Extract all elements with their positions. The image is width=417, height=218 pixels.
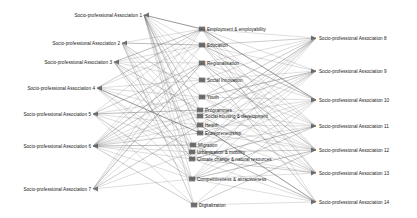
node-marker[interactable] <box>199 43 205 48</box>
node-label-m14: Digitalization <box>199 203 226 208</box>
edge <box>192 152 316 173</box>
node-marker[interactable] <box>190 143 196 148</box>
node-label-m13: Competitiveness & attractiveness <box>197 177 266 182</box>
node-label-m9: Entrepreneurship <box>205 131 241 136</box>
node-label-m10: Migration <box>198 143 217 148</box>
node-marker[interactable] <box>197 131 203 136</box>
edge <box>202 45 316 71</box>
node-marker[interactable] <box>199 61 205 66</box>
network-diagram-canvas: Socio-professional Association 1Socio-pr… <box>0 0 417 218</box>
node-label-l5: Socio-professional Association 5 <box>23 112 91 117</box>
edge <box>93 29 202 189</box>
node-label-l6: Socio-professional Association 6 <box>23 144 91 149</box>
node-marker[interactable] <box>199 27 205 32</box>
node-marker[interactable] <box>197 108 203 113</box>
node-label-l7: Socio-professional Association 7 <box>23 187 91 192</box>
node-label-m4: Social innovation <box>207 78 243 83</box>
node-marker[interactable] <box>191 203 197 208</box>
node-label-m1: Employment & employability <box>207 27 266 32</box>
node-label-l1: Socio-professional Association 1 <box>74 13 142 18</box>
node-label-l3: Socio-professional Association 3 <box>44 60 112 65</box>
node-label-m6: Programmes <box>205 108 232 113</box>
node-label-m11: Urbanisation & mobility <box>197 150 245 155</box>
edge <box>97 88 192 179</box>
edge <box>93 152 192 189</box>
node-marker[interactable] <box>189 157 195 162</box>
node-label-r6: Socio-professional Association 13 <box>319 171 389 176</box>
edge <box>97 29 202 88</box>
node-label-m3: Regionalisation <box>207 61 239 66</box>
node-label-m12: Climate change & natural resources <box>197 157 272 162</box>
node-label-r1: Socio-professional Association 8 <box>319 36 387 41</box>
node-label-m7: Social housing & development <box>205 114 268 119</box>
edge <box>114 62 200 110</box>
node-label-r2: Socio-professional Association 9 <box>319 69 387 74</box>
edge <box>93 29 202 146</box>
node-marker[interactable] <box>199 78 205 83</box>
node-marker[interactable] <box>189 177 195 182</box>
node-label-l2: Socio-professional Association 2 <box>52 41 120 46</box>
node-marker[interactable] <box>197 123 203 128</box>
node-label-m8: Health <box>205 123 219 128</box>
edge <box>93 125 200 189</box>
edge <box>93 146 194 205</box>
node-marker[interactable] <box>197 114 203 119</box>
edge <box>93 63 202 114</box>
node-marker[interactable] <box>199 95 205 100</box>
edge <box>93 179 192 189</box>
node-label-r7: Socio-professional Association 14 <box>319 200 389 205</box>
node-label-m5: Youth <box>207 95 219 100</box>
node-label-r5: Socio-professional Association 12 <box>319 148 389 153</box>
node-label-l4: Socio-professional Association 4 <box>27 86 95 91</box>
node-label-m2: Education <box>207 43 228 48</box>
node-label-r4: Socio-professional Association 11 <box>319 124 389 129</box>
node-label-r3: Socio-professional Association 10 <box>319 98 389 103</box>
node-marker[interactable] <box>189 150 195 155</box>
node-marker[interactable] <box>93 186 98 191</box>
edge <box>93 145 193 146</box>
edge <box>93 114 200 125</box>
edge <box>122 29 202 43</box>
